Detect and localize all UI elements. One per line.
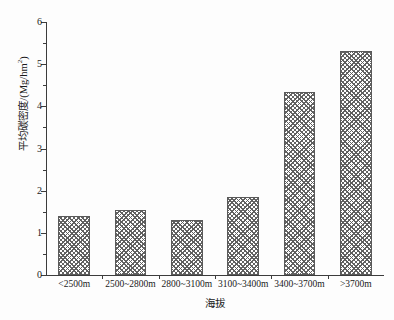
y-minor-tick-mark	[43, 170, 46, 171]
y-tick-label: 1	[37, 228, 42, 238]
y-minor-tick-mark	[43, 127, 46, 128]
y-tick-label: 6	[37, 17, 42, 27]
x-tick-mark	[271, 275, 272, 279]
x-tick-label: 2800~3100m	[162, 280, 213, 290]
y-minor-tick-mark	[43, 254, 46, 255]
x-tick-label: 3400~3700m	[274, 280, 325, 290]
plot-area: 0123456 <2500m2500~2800m2800~3100m3100~3…	[46, 22, 384, 275]
x-tick-label: 2500~2800m	[105, 280, 156, 290]
y-axis-title-main: 平均碳密度/(Mg/hm	[18, 63, 29, 150]
y-axis-title: 平均碳密度/(Mg/hm2)	[15, 19, 30, 189]
y-tick-label: 2	[37, 186, 42, 196]
x-tick-label: <2500m	[58, 280, 90, 290]
bar	[284, 92, 316, 275]
y-axis-line	[46, 22, 47, 275]
x-tick-label: >3700m	[340, 280, 372, 290]
y-minor-tick-mark	[43, 43, 46, 44]
y-tick-label: 4	[37, 101, 42, 111]
bar	[115, 210, 147, 275]
bar-chart-figure: 平均碳密度/(Mg/hm2) 0123456 <2500m2500~2800m2…	[0, 0, 394, 320]
y-minor-tick-mark	[43, 212, 46, 213]
x-tick-mark	[215, 275, 216, 279]
x-tick-mark	[159, 275, 160, 279]
x-axis-title: 海拔	[46, 295, 384, 310]
y-axis-title-tail: )	[18, 56, 29, 60]
y-axis-title-superscript: 2	[16, 60, 24, 64]
bar	[340, 51, 372, 275]
x-tick-mark	[328, 275, 329, 279]
x-tick-label: 3100~3400m	[218, 280, 269, 290]
bar	[58, 216, 90, 275]
bar	[171, 220, 203, 275]
x-tick-mark	[102, 275, 103, 279]
y-tick-label: 5	[37, 59, 42, 69]
y-minor-tick-mark	[43, 85, 46, 86]
bar	[227, 197, 259, 275]
y-tick-label: 3	[37, 144, 42, 154]
y-tick-label: 0	[37, 270, 42, 280]
